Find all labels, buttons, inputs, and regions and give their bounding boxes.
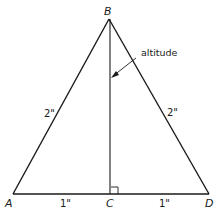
vertex-label-a: A bbox=[4, 197, 13, 210]
vertex-label-d: D bbox=[205, 197, 213, 210]
altitude-label: altitude bbox=[141, 47, 178, 58]
diagram-canvas: B A C D 2" 2" 1" 1" altitude bbox=[0, 0, 223, 216]
measure-ac: 1" bbox=[60, 198, 71, 209]
side-ab bbox=[13, 19, 109, 194]
measure-ab: 2" bbox=[44, 108, 55, 119]
measure-cd: 1" bbox=[159, 198, 170, 209]
vertex-label-b: B bbox=[104, 5, 112, 18]
right-angle-marker bbox=[111, 187, 118, 194]
triangle-diagram: B A C D 2" 2" 1" 1" altitude bbox=[0, 0, 223, 216]
measure-bd: 2" bbox=[167, 107, 178, 118]
side-bd bbox=[109, 19, 209, 194]
vertex-label-c: C bbox=[106, 197, 114, 210]
